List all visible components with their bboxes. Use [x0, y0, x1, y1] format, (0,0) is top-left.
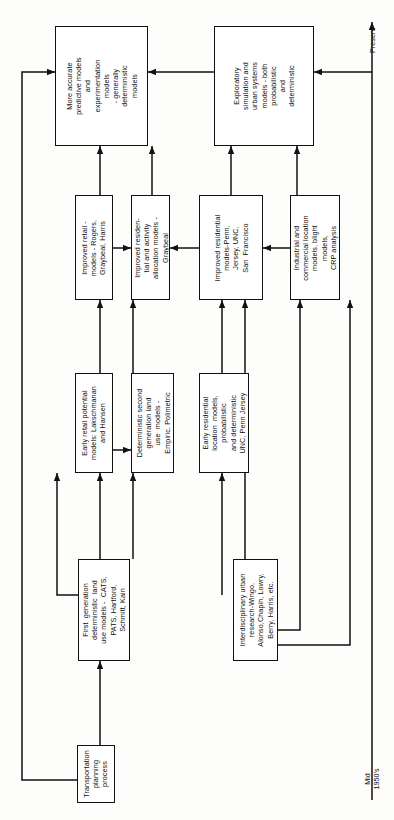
connector-firstgen-branch-earlyretail — [57, 473, 78, 595]
node-early-residential-location[interactable]: Early residential location models, proba… — [199, 373, 249, 473]
node-more-accurate-models-label: More accurate predictive models and expe… — [65, 29, 139, 143]
node-improved-residential-activity-label: Improved residen- tial and activity allo… — [132, 197, 169, 298]
node-more-accurate-models[interactable]: More accurate predictive models and expe… — [55, 26, 148, 146]
node-early-retail-potential-label: Early retail potential models: Lakschman… — [80, 375, 108, 472]
node-early-residential-location-label: Early residential location models, proba… — [201, 375, 247, 472]
connector-interdisc-to-improvedres — [278, 300, 300, 630]
connector-interdisc-to-industrial — [278, 300, 350, 645]
node-industrial-commercial[interactable]: Industrial and commercial location model… — [290, 195, 340, 300]
node-improved-retail[interactable]: Improved retail - models - Rogers, Grayb… — [75, 195, 113, 300]
node-industrial-commercial-label: Industrial and commercial location model… — [292, 197, 338, 298]
node-early-retail-potential[interactable]: Early retail potential models: Lakschman… — [75, 373, 113, 473]
axis-end-label: Present — [368, 21, 377, 61]
node-interdisciplinary-urban-research[interactable]: Interdisciplinary urban research-Wingo, … — [233, 559, 278, 661]
node-interdisciplinary-urban-research-label: Interdisciplinary urban research-Wingo, … — [237, 561, 274, 660]
node-transportation-planning-process[interactable]: Transportation planning process — [77, 745, 115, 803]
node-improved-residential-label: Improved residential models-Penn, Jersey… — [213, 197, 250, 298]
node-improved-retail-label: Improved retail - models - Rogers, Grayb… — [80, 197, 108, 298]
connector-transport-to-moreaccurate — [22, 72, 77, 780]
node-exploratory-simulation[interactable]: Exploratory simulation and urban systems… — [214, 26, 314, 146]
axis-start-label: Mid 1950's — [363, 761, 381, 797]
node-deterministic-second-generation-label: Deterministic second generation land use… — [134, 375, 171, 472]
node-deterministic-second-generation[interactable]: Deterministic second generation land use… — [131, 373, 174, 473]
node-first-generation[interactable]: First generation deterministic land use … — [78, 559, 130, 661]
diagram-canvas: More accurate predictive models and expe… — [0, 0, 394, 820]
node-improved-residential-activity[interactable]: Improved residen- tial and activity allo… — [131, 195, 170, 300]
node-improved-residential[interactable]: Improved residential models-Penn, Jersey… — [199, 195, 263, 300]
node-transportation-planning-process-label: Transportation planning process — [82, 746, 110, 802]
node-first-generation-label: First generation deterministic land use … — [81, 561, 127, 660]
node-exploratory-simulation-label: Exploratory simulation and urban systems… — [232, 29, 297, 143]
